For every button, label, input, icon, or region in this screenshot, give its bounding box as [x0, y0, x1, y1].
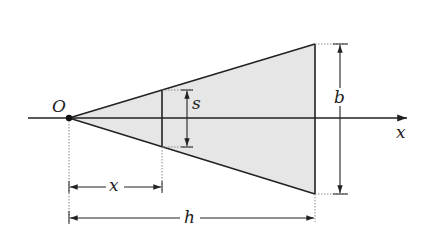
label-origin: O [52, 96, 66, 116]
label-s: s [192, 93, 201, 113]
label-x-axis: x [396, 122, 406, 142]
label-h: h [184, 207, 195, 227]
label-b: b [334, 87, 345, 107]
triangle-region [69, 44, 315, 194]
b-dimension [333, 44, 348, 194]
triangle-diagram: s b x h O x [0, 0, 431, 242]
label-x-distance: x [109, 175, 119, 195]
origin-point [66, 115, 72, 121]
